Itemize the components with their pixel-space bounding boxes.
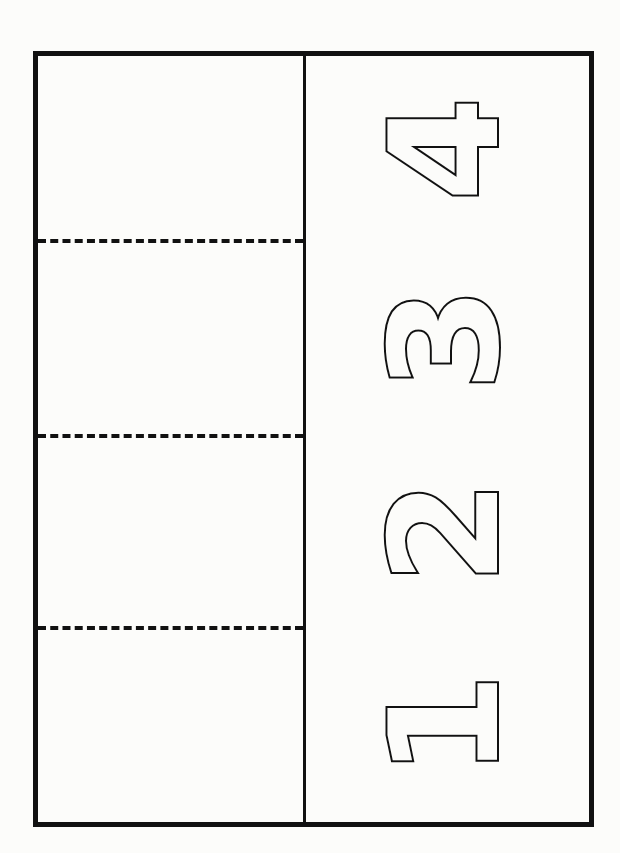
number-cell-2: 2 <box>306 436 585 628</box>
number-cell-1: 1 <box>306 628 585 822</box>
number-outline: 4 <box>371 96 521 200</box>
number-outline: 3 <box>371 286 521 390</box>
fold-line-2 <box>38 434 303 438</box>
fold-line-3 <box>38 626 303 630</box>
number-cell-3: 3 <box>306 241 585 436</box>
number-cell-4: 4 <box>306 56 585 241</box>
worksheet-page: 4 3 2 1 <box>0 0 620 853</box>
number-outline: 1 <box>371 673 521 777</box>
number-outline: 2 <box>371 480 521 584</box>
numbers-column: 4 3 2 1 <box>306 56 585 822</box>
fold-line-1 <box>38 239 303 243</box>
